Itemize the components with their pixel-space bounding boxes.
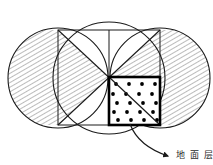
dotted-sub-square-group [109,77,160,125]
hatched-regions [0,0,213,165]
left-inner-triangle-hatch [58,30,109,125]
geometry-diagram [0,0,213,165]
geometry-figure-container: 地 面 层 [0,0,213,165]
callout-label: 地 面 层 [176,150,213,160]
callout-arrow [130,124,168,156]
